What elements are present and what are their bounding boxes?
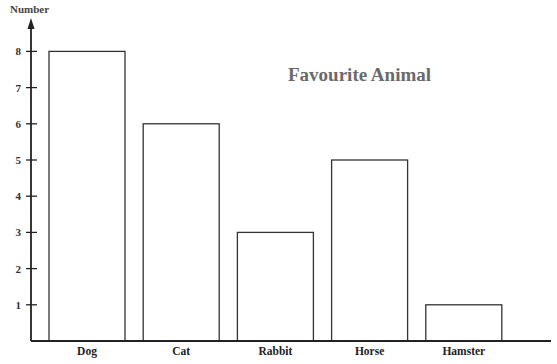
x-label-cat: Cat	[172, 345, 190, 357]
y-tick-label: 6	[16, 118, 22, 130]
bar-chart: 12345678 DogCatRabbitHorseHamster Number…	[0, 0, 557, 364]
y-tick-label: 3	[16, 226, 22, 238]
y-tick-label: 8	[16, 45, 22, 57]
bars-group	[49, 51, 502, 341]
y-axis-label: Number	[10, 3, 49, 15]
x-label-dog: Dog	[77, 345, 97, 358]
bar-rabbit	[237, 232, 313, 341]
x-label-horse: Horse	[355, 345, 384, 357]
y-tick-label: 2	[16, 263, 22, 275]
y-tick-label: 7	[16, 82, 22, 94]
bar-dog	[49, 51, 125, 341]
x-label-hamster: Hamster	[442, 345, 485, 357]
y-axis-ticks: 12345678	[16, 45, 38, 310]
bar-hamster	[426, 305, 502, 341]
y-tick-label: 4	[16, 190, 22, 202]
y-tick-label: 5	[16, 154, 22, 166]
y-tick-label: 1	[16, 299, 22, 311]
x-label-rabbit: Rabbit	[258, 345, 292, 357]
x-axis-labels: DogCatRabbitHorseHamster	[77, 345, 485, 358]
bar-horse	[332, 160, 408, 341]
chart-title: Favourite Animal	[288, 64, 431, 85]
bar-cat	[143, 124, 219, 341]
y-axis-arrow-icon	[28, 18, 35, 29]
